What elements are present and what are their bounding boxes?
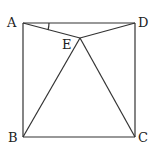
segment-ce [80, 38, 135, 137]
segment-de [80, 23, 135, 38]
label-b: B [8, 130, 18, 145]
angle-mark-dae [48, 23, 49, 30]
segment-ae [23, 23, 80, 38]
segments-to-e [23, 23, 135, 137]
label-c: C [138, 130, 148, 145]
segment-be [23, 38, 80, 137]
label-e: E [62, 37, 72, 52]
label-d: D [138, 15, 148, 30]
label-a: A [6, 15, 17, 30]
geometry-diagram: A D E B C [0, 0, 154, 154]
